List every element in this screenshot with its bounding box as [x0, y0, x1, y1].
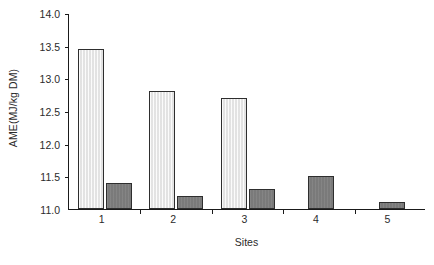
- x-tick-label-3: 3: [242, 214, 248, 225]
- bar-dark-site-3: [249, 189, 275, 209]
- y-tick-label: 13.5: [40, 41, 60, 52]
- y-tick-mark: [65, 47, 69, 48]
- y-axis-tick-labels: 11.011.512.012.513.013.514.0: [26, 0, 62, 215]
- x-axis-tick-labels: 12345: [68, 214, 425, 232]
- y-tick-label: 12.0: [40, 139, 60, 150]
- y-axis-title-text: AME(MJ/kg DM): [7, 68, 19, 146]
- y-tick-label: 11.5: [40, 172, 60, 183]
- x-tick-label-4: 4: [313, 214, 319, 225]
- x-tick-label-5: 5: [384, 214, 390, 225]
- y-axis-title: AME(MJ/kg DM): [0, 0, 26, 215]
- bar-dark-site-5: [379, 202, 405, 209]
- bar-light-site-1: [78, 49, 104, 209]
- bar-dark-site-4: [308, 176, 334, 209]
- y-tick-mark: [65, 14, 69, 15]
- bar-light-site-2: [149, 91, 175, 209]
- y-tick-mark: [65, 79, 69, 80]
- bar-light-site-3: [221, 98, 247, 209]
- y-tick-mark: [65, 112, 69, 113]
- bar-dark-site-1: [106, 183, 132, 209]
- y-tick-label: 12.5: [40, 107, 60, 118]
- plot-area: [68, 14, 425, 210]
- y-tick-mark: [65, 145, 69, 146]
- x-tick-label-2: 2: [170, 214, 176, 225]
- y-tick-label: 11.0: [40, 205, 60, 216]
- bar-chart: AME(MJ/kg DM) 11.011.512.012.513.013.514…: [0, 0, 434, 265]
- x-axis-title: Sites: [68, 236, 425, 248]
- y-tick-label: 14.0: [40, 9, 60, 20]
- y-tick-label: 13.0: [40, 74, 60, 85]
- y-tick-mark: [65, 177, 69, 178]
- bar-dark-site-2: [177, 196, 203, 209]
- x-tick-label-1: 1: [99, 214, 105, 225]
